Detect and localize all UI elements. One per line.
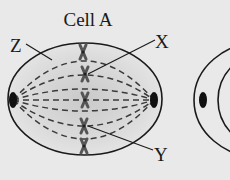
cell-a [8, 43, 162, 155]
cell-a-title: Cell A [63, 9, 112, 30]
left-pole-centrosome [9, 92, 17, 108]
cell-b-partial [194, 42, 230, 158]
cell-diagram: Cell A Z X Y [0, 0, 230, 180]
diagram-canvas: Cell A Z X Y [0, 0, 230, 180]
right-pole-centrosome [150, 92, 158, 108]
label-x: X [155, 31, 169, 52]
label-y: Y [154, 144, 168, 165]
label-z: Z [10, 35, 22, 56]
cell-b-centrosome [199, 92, 207, 108]
